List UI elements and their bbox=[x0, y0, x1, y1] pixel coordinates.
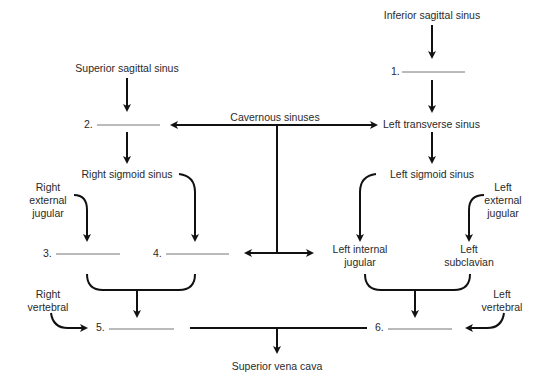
merge-bracket bbox=[87, 274, 195, 290]
node-right-external-jugular-line1: Right bbox=[36, 181, 61, 193]
blank-label-2: 2. bbox=[84, 118, 93, 130]
curved-arrow-icon bbox=[179, 174, 195, 240]
node-left-external-jugular-line1: Left bbox=[494, 181, 512, 193]
node-superior-sagittal-sinus: Superior sagittal sinus bbox=[75, 62, 178, 74]
node-superior-vena-cava: Superior vena cava bbox=[232, 360, 323, 372]
blank-label-1: 1. bbox=[391, 65, 400, 77]
merge-bracket bbox=[365, 274, 470, 290]
curved-arrow-icon bbox=[360, 174, 376, 240]
blank-label-3: 3. bbox=[43, 247, 52, 259]
node-right-external-jugular-line3: jugular bbox=[31, 207, 64, 219]
curved-arrow-icon bbox=[51, 313, 86, 328]
node-left-external-jugular-line3: jugular bbox=[486, 207, 519, 219]
node-left-external-jugular-line2: external bbox=[484, 194, 521, 206]
blank-label-5: 5. bbox=[96, 321, 105, 333]
curved-arrow-icon bbox=[74, 195, 87, 240]
node-left-subclavian-line1: Left bbox=[460, 243, 478, 255]
curved-arrow-icon bbox=[467, 313, 504, 328]
node-left-sigmoid-sinus: Left sigmoid sinus bbox=[390, 168, 474, 180]
node-left-transverse-sinus: Left transverse sinus bbox=[383, 118, 480, 130]
node-right-sigmoid-sinus: Right sigmoid sinus bbox=[81, 168, 172, 180]
node-left-internal-jugular-line2: jugular bbox=[343, 256, 376, 268]
node-right-external-jugular-line2: external bbox=[29, 194, 66, 206]
node-inferior-sagittal-sinus: Inferior sagittal sinus bbox=[384, 9, 480, 21]
node-left-vertebral-line2: vertebral bbox=[482, 301, 523, 313]
diagram-canvas: Inferior sagittal sinus 1. Left transver… bbox=[0, 0, 554, 389]
node-left-internal-jugular-line1: Left internal bbox=[333, 243, 388, 255]
curved-arrow-icon bbox=[469, 195, 484, 240]
blank-label-6: 6. bbox=[375, 321, 384, 333]
node-right-vertebral-line2: vertebral bbox=[28, 301, 69, 313]
venous-drainage-diagram: Inferior sagittal sinus 1. Left transver… bbox=[0, 0, 554, 389]
node-right-vertebral-line1: Right bbox=[36, 288, 61, 300]
node-left-vertebral-line1: Left bbox=[493, 288, 511, 300]
node-cavernous-sinuses: Cavernous sinuses bbox=[230, 111, 319, 123]
node-left-subclavian-line2: subclavian bbox=[444, 256, 494, 268]
blank-label-4: 4. bbox=[153, 247, 162, 259]
